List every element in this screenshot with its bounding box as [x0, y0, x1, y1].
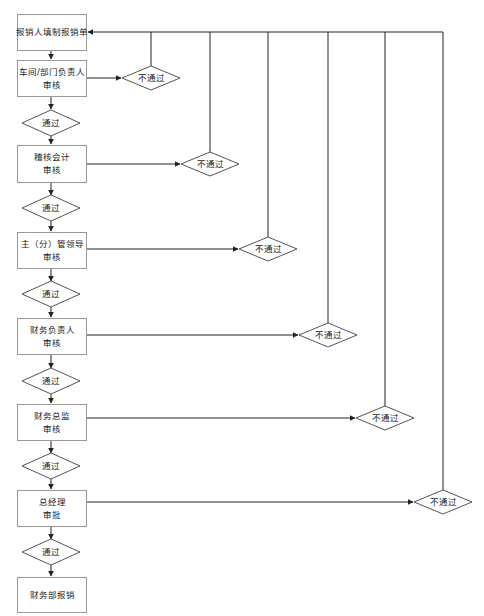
step-label: 财务负责人: [30, 324, 75, 337]
step-vp-review: 主（分）管领导审核: [17, 232, 87, 269]
reject-connectors: [87, 32, 443, 502]
pass-decision-label: 通过: [22, 459, 80, 473]
step-finance-head-review: 财务负责人审核: [17, 318, 87, 355]
step-sublabel: 审核: [34, 423, 70, 436]
step-label: 车间/部门负责人: [19, 66, 85, 79]
step-dept-head-review: 车间/部门负责人审核: [17, 60, 87, 97]
step-label: 报销人填制报销单: [16, 26, 88, 39]
pass-decision-label: 通过: [22, 116, 80, 130]
fail-decision-label: 不通过: [414, 495, 472, 509]
fail-decision-label: 不通过: [299, 328, 357, 342]
step-sublabel: 审核: [21, 251, 84, 264]
fail-decision-label: 不通过: [356, 411, 414, 425]
step-label: 稽核会计: [34, 151, 70, 164]
fail-decision-label: 不通过: [181, 157, 239, 171]
step-label: 财务部报销: [30, 589, 75, 602]
pass-decision-label: 通过: [22, 201, 80, 215]
pass-decision-label: 通过: [22, 545, 80, 559]
step-cfo-review: 财务总监审核: [17, 404, 87, 441]
pass-decision-label: 通过: [22, 374, 80, 388]
fail-decision-label: 不通过: [239, 242, 297, 256]
step-label: 主（分）管领导: [21, 238, 84, 251]
step-finance-reimbursement: 财务部报销: [17, 577, 87, 613]
step-sublabel: 审核: [34, 164, 70, 177]
step-submit-claim: 报销人填制报销单: [17, 14, 87, 51]
fail-diamonds: [122, 66, 472, 514]
step-audit-accountant-review: 稽核会计审核: [17, 145, 87, 183]
step-label: 总经理: [39, 496, 66, 509]
step-label: 财务总监: [34, 410, 70, 423]
step-sublabel: 审核: [30, 337, 75, 350]
step-sublabel: 审核: [19, 79, 85, 92]
step-sublabel: 审批: [39, 509, 66, 522]
step-gm-approval: 总经理审批: [17, 490, 87, 527]
fail-decision-label: 不通过: [122, 71, 180, 85]
pass-decision-label: 通过: [22, 287, 80, 301]
